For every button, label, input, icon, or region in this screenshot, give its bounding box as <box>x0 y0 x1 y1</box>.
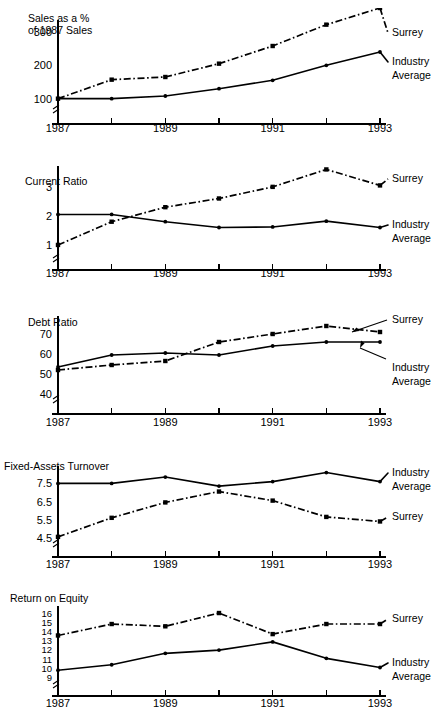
data-point-surrey-1989 <box>163 205 167 209</box>
legend-label-industry-line1: Industry <box>392 466 430 478</box>
chart-current-ratio: Current Ratio1987198919911993123SurreyIn… <box>0 152 444 288</box>
x-tick-label-1989: 1989 <box>153 267 177 279</box>
legend-label-surrey: Surrey <box>392 26 424 38</box>
series-line-surrey <box>58 8 380 99</box>
series-line-industry-average <box>58 642 380 670</box>
y-tick-label-3: 3 <box>46 181 52 193</box>
data-point-industry-average-1988 <box>110 97 114 101</box>
data-point-industry-average-1991 <box>271 640 275 644</box>
data-point-surrey-1988 <box>109 77 113 81</box>
y-tick-label-2: 2 <box>46 210 52 222</box>
legend-label-industry-line2: Average <box>392 232 431 244</box>
data-point-industry-average-1992 <box>324 219 328 223</box>
chart-title: Debt Ratio <box>28 316 78 328</box>
legend-label-surrey: Surrey <box>392 172 424 184</box>
chart-title: Fixed-Assets Turnover <box>4 460 110 472</box>
data-point-industry-average-1992 <box>324 656 328 660</box>
y-tick-label-60: 60 <box>40 348 52 360</box>
data-point-surrey-1990 <box>217 489 221 493</box>
data-point-industry-average-1987 <box>56 365 60 369</box>
data-point-surrey-1988 <box>109 363 113 367</box>
x-tick-label-1987: 1987 <box>46 122 70 134</box>
data-point-surrey-1991 <box>270 332 274 336</box>
series-line-surrey <box>58 613 380 635</box>
x-tick-label-1993: 1993 <box>368 416 392 428</box>
data-point-industry-average-1990 <box>217 87 221 91</box>
x-tick-label-1987: 1987 <box>46 267 70 279</box>
data-point-industry-average-1987 <box>56 213 60 217</box>
data-point-industry-average-1991 <box>271 480 275 484</box>
legend-label-industry-line1: Industry <box>392 55 430 67</box>
data-point-industry-average-1992 <box>324 340 328 344</box>
data-point-surrey-1987 <box>56 535 60 539</box>
chart-panel-sales-percent: Sales as a %of 1987 Sales198719891991199… <box>0 8 444 148</box>
x-tick-label-1989: 1989 <box>153 558 177 570</box>
chart-panel-debt-ratio: Debt Ratio198719891991199340506070Surrey… <box>0 296 444 440</box>
legend-label-industry-line1: Industry <box>392 218 430 230</box>
data-point-industry-average-1987 <box>56 97 60 101</box>
data-point-surrey-1990 <box>217 196 221 200</box>
series-line-surrey <box>58 492 380 537</box>
legend-leader-surrey <box>380 8 388 33</box>
series-line-industry-average <box>58 473 380 487</box>
data-point-surrey-1989 <box>163 359 167 363</box>
legend-leader-surrey <box>380 619 388 624</box>
data-point-surrey-1990 <box>217 61 221 65</box>
data-point-surrey-1993 <box>378 330 382 334</box>
x-tick-label-1991: 1991 <box>260 267 284 279</box>
data-point-surrey-1989 <box>163 500 167 504</box>
x-tick-label-1993: 1993 <box>368 697 392 709</box>
data-point-surrey-1991 <box>270 498 274 502</box>
data-point-industry-average-1990 <box>217 484 221 488</box>
y-tick-label-7.5: 7.5 <box>37 477 52 489</box>
series-line-surrey <box>58 169 380 244</box>
data-point-surrey-1989 <box>163 624 167 628</box>
data-point-industry-average-1987 <box>56 482 60 486</box>
data-point-surrey-1992 <box>324 167 328 171</box>
x-tick-label-1991: 1991 <box>260 122 284 134</box>
data-point-surrey-1991 <box>270 185 274 189</box>
y-tick-label-200: 200 <box>34 59 52 71</box>
chart-panel-current-ratio: Current Ratio1987198919911993123SurreyIn… <box>0 152 444 288</box>
data-point-industry-average-1989 <box>163 94 167 98</box>
y-tick-label-300: 300 <box>34 26 52 38</box>
legend-leader-industry-average <box>380 663 388 668</box>
chart-title: Sales as a % <box>28 12 89 24</box>
data-point-industry-average-1990 <box>217 353 221 357</box>
legend-leader-industry-average <box>380 473 388 482</box>
y-tick-label-6.5: 6.5 <box>37 496 52 508</box>
data-point-surrey-1992 <box>324 22 328 26</box>
data-point-industry-average-1988 <box>110 353 114 357</box>
chart-debt-ratio: Debt Ratio198719891991199340506070Surrey… <box>0 296 444 440</box>
x-tick-label-1989: 1989 <box>153 416 177 428</box>
data-point-surrey-1990 <box>217 340 221 344</box>
data-point-industry-average-1990 <box>217 226 221 230</box>
data-point-industry-average-1989 <box>163 651 167 655</box>
data-point-industry-average-1991 <box>271 344 275 348</box>
data-point-industry-average-1991 <box>271 225 275 229</box>
data-point-surrey-1992 <box>324 515 328 519</box>
y-tick-label-4.5: 4.5 <box>37 532 52 544</box>
x-tick-label-1989: 1989 <box>153 697 177 709</box>
x-tick-label-1993: 1993 <box>368 122 392 134</box>
data-point-surrey-1987 <box>56 243 60 247</box>
legend-label-surrey: Surrey <box>392 510 424 522</box>
chart-title: Current Ratio <box>25 175 88 187</box>
y-tick-label-50: 50 <box>40 368 52 380</box>
x-tick-label-1987: 1987 <box>46 558 70 570</box>
legend-label-surrey: Surrey <box>392 612 424 624</box>
legend-label-industry-line1: Industry <box>392 656 430 668</box>
x-tick-label-1991: 1991 <box>260 416 284 428</box>
legend-leader-surrey <box>380 179 388 185</box>
x-tick-label-1991: 1991 <box>260 558 284 570</box>
series-line-surrey <box>58 326 380 370</box>
data-point-surrey-1988 <box>109 220 113 224</box>
chart-fixed-assets-turnover: Fixed-Assets Turnover19871989199119934.5… <box>0 444 444 586</box>
data-point-industry-average-1989 <box>163 220 167 224</box>
data-point-surrey-1989 <box>163 75 167 79</box>
chart-return-on-equity: Return on Equity198719891991199391011121… <box>0 590 444 719</box>
y-tick-label-100: 100 <box>34 93 52 105</box>
data-point-surrey-1991 <box>270 44 274 48</box>
data-point-industry-average-1988 <box>110 663 114 667</box>
data-point-surrey-1987 <box>56 633 60 637</box>
